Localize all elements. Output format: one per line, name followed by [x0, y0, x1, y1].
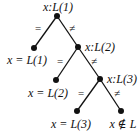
decision-tree-diagram: =≠=≠=≠ x:L(1)x:L(2)x:L(3)x = L(1)x = L(2… — [0, 0, 140, 131]
equal-edge-label: = — [78, 87, 84, 99]
leaf-node-dot-l2 — [53, 77, 59, 83]
equal-edge-label: = — [57, 55, 63, 67]
equal-edge-label: = — [35, 22, 41, 34]
leaf-label-l3: x = L(3) — [50, 117, 91, 131]
leaf-label-l1: x = L(1) — [6, 53, 47, 67]
not-equal-edge-label: ≠ — [114, 87, 120, 99]
leaf-node-dot-l4 — [118, 108, 124, 114]
not-equal-edge-label: ≠ — [91, 55, 97, 67]
leaf-node-dot-l3 — [74, 108, 80, 114]
not-equal-edge-label: ≠ — [69, 22, 75, 34]
leaf-label-l4: x ∉ L — [109, 117, 137, 131]
comparison-node-dot-n2 — [75, 44, 81, 50]
comparison-label-n3: x:L(3) — [106, 72, 137, 86]
leaf-node-dot-l1 — [31, 45, 37, 51]
comparison-label-n1: x:L(1) — [42, 0, 73, 14]
leaf-label-l2: x = L(2) — [27, 86, 68, 100]
comparison-node-dot-n3 — [97, 76, 103, 82]
comparison-label-n2: x:L(2) — [84, 40, 115, 54]
node-labels-group: x:L(1)x:L(2)x:L(3)x = L(1)x = L(2)x = L(… — [6, 0, 137, 131]
